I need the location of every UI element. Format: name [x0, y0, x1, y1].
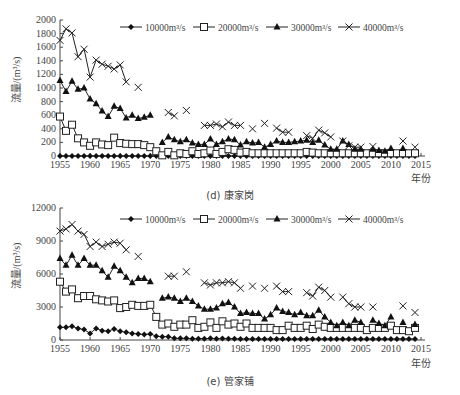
data-point	[273, 304, 280, 311]
data-point	[375, 320, 382, 327]
data-point	[111, 297, 118, 304]
data-point	[412, 336, 418, 342]
y-tick-label: 3000	[36, 301, 56, 312]
x-tick-label: 2010	[381, 343, 401, 354]
data-point	[213, 304, 220, 311]
data-point	[225, 336, 231, 342]
data-point	[279, 307, 286, 314]
data-point	[394, 336, 400, 342]
data-point	[141, 274, 148, 281]
data-point	[250, 336, 256, 342]
data-point	[63, 324, 69, 330]
data-point	[75, 325, 81, 331]
series-20000	[57, 278, 419, 335]
data-point	[141, 332, 147, 338]
x-tick-label: 1960	[80, 343, 100, 354]
data-point	[165, 334, 171, 340]
y-tick-label: 12000	[31, 202, 56, 213]
data-point	[117, 267, 124, 274]
data-point	[400, 336, 406, 342]
data-point	[213, 336, 219, 342]
data-point	[135, 253, 142, 260]
data-point	[346, 336, 352, 342]
series-30000	[57, 251, 419, 328]
data-point	[399, 318, 406, 325]
x-tick-label: 2015	[411, 343, 431, 354]
data-point	[280, 336, 286, 342]
data-point	[123, 246, 130, 253]
data-point	[339, 294, 346, 301]
data-point	[340, 336, 346, 342]
data-point	[117, 328, 123, 334]
data-point	[177, 298, 184, 305]
data-point	[69, 286, 76, 293]
legend-label: 40000m³/s	[363, 215, 404, 225]
x-tick-label: 2000	[321, 343, 341, 354]
data-point	[225, 299, 232, 306]
data-point	[316, 336, 322, 342]
data-point	[327, 318, 334, 325]
data-point	[123, 329, 129, 335]
chart-caption-d: (d) 康家岗	[0, 187, 460, 202]
y-tick-label: 6000	[36, 268, 56, 279]
data-point	[147, 278, 154, 285]
data-point	[351, 316, 358, 323]
data-point	[69, 323, 75, 329]
legend-label: 30000m³/s	[291, 215, 332, 225]
data-point	[369, 316, 376, 323]
data-point	[369, 304, 376, 311]
data-point	[201, 305, 208, 312]
x-tick-label: 1975	[170, 343, 190, 354]
data-point	[315, 306, 322, 313]
data-point	[237, 285, 244, 292]
data-point	[69, 251, 76, 257]
data-point	[87, 243, 94, 250]
data-point	[213, 324, 220, 331]
data-point	[81, 327, 87, 333]
data-point	[195, 302, 202, 309]
legend-label: 20000m³/s	[218, 215, 259, 225]
data-point	[57, 278, 64, 285]
data-point	[57, 324, 63, 330]
data-point	[399, 302, 406, 309]
data-point	[189, 336, 195, 342]
legend-label: 10000m³/s	[145, 215, 186, 225]
data-point	[238, 336, 244, 342]
data-point	[411, 309, 418, 316]
data-point	[310, 336, 316, 342]
y-axis-label: 流量/(m³/s)	[10, 243, 23, 290]
data-point	[286, 336, 292, 342]
data-point	[207, 282, 214, 289]
data-point	[111, 262, 118, 269]
chart-caption-e: (e) 管家铺	[0, 373, 460, 388]
data-point	[93, 261, 100, 268]
data-point	[328, 336, 334, 342]
data-point	[334, 336, 340, 342]
x-tick-label: 1995	[291, 343, 311, 354]
data-point	[99, 328, 105, 334]
data-point	[147, 301, 154, 308]
data-point	[303, 312, 310, 319]
x-tick-label: 1980	[200, 343, 220, 354]
data-point	[231, 336, 237, 342]
x-tick-label: 1990	[261, 343, 281, 354]
data-point	[189, 317, 196, 324]
data-point	[406, 336, 412, 342]
data-point	[81, 255, 88, 262]
x-axis-label-d: 年份	[411, 170, 431, 185]
data-point	[411, 321, 418, 328]
data-point	[189, 298, 196, 305]
data-point	[261, 315, 268, 322]
y-tick-label: 9000	[36, 235, 56, 246]
data-point	[364, 336, 370, 342]
data-point	[219, 336, 225, 342]
data-point	[105, 328, 111, 334]
data-point	[322, 336, 328, 342]
data-point	[231, 303, 238, 310]
x-axis-label-e: 年份	[411, 355, 431, 370]
data-point	[352, 336, 358, 342]
data-point	[261, 285, 268, 292]
x-tick-label: 1965	[110, 343, 130, 354]
data-point	[255, 310, 262, 317]
x-tick-label: 1955	[50, 343, 70, 354]
